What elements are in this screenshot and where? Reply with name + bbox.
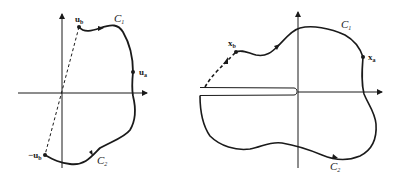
right-dashed-segment (205, 52, 236, 87)
left-point-ua (131, 70, 135, 74)
contour-diagram: ub C1 ua −ub C2 xb C1 xa C2 (0, 0, 398, 181)
left-label-c1: C1 (114, 12, 124, 25)
right-branch-cut (200, 88, 297, 96)
left-point-ub (77, 25, 81, 29)
right-contour-c1 (236, 27, 363, 57)
right-label-c2: C2 (330, 160, 340, 173)
left-label-c2: C2 (97, 154, 107, 167)
left-contour-c1 (79, 25, 133, 96)
right-label-xa: xa (368, 52, 376, 63)
right-contour-c2 (200, 57, 376, 159)
right-panel: xb C1 xa C2 (200, 12, 382, 173)
left-label-ub: ub (75, 14, 84, 25)
left-contour-c2 (45, 96, 135, 164)
right-arrow-dashed-icon (223, 57, 228, 64)
right-arrow-c2-icon (332, 154, 338, 159)
left-panel: ub C1 ua −ub C2 (18, 12, 147, 168)
right-point-xa (361, 55, 365, 59)
right-point-xb (234, 50, 238, 54)
right-label-c1: C1 (341, 18, 351, 31)
right-label-xb: xb (228, 38, 237, 49)
left-point-neg-ub (43, 153, 47, 157)
left-label-neg-ub: −ub (28, 150, 42, 161)
left-arrow-c2-icon (89, 150, 93, 156)
left-label-ua: ua (139, 67, 147, 78)
